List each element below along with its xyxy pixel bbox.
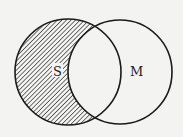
set-m-circle	[68, 20, 172, 124]
set-m-label: M	[130, 64, 143, 79]
venn-svg: S M	[0, 0, 183, 137]
venn-diagram: S M	[0, 0, 183, 137]
set-s-label: S	[53, 64, 62, 79]
